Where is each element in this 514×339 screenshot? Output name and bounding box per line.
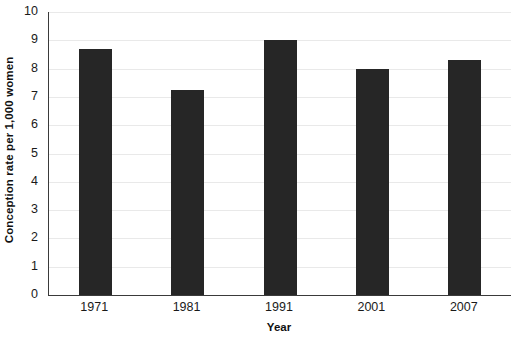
x-axis-title: Year — [48, 321, 510, 333]
x-tick-label: 2001 — [325, 300, 417, 314]
y-tick-label: 6 — [0, 117, 38, 131]
bar-chart: Conception rate per 1,000 women 10987654… — [0, 0, 514, 339]
y-axis-tick-labels: 109876543210 — [0, 0, 44, 339]
y-tick-label: 8 — [0, 61, 38, 75]
bar[interactable] — [264, 40, 297, 295]
y-tick-label: 3 — [0, 202, 38, 216]
y-tick-label: 7 — [0, 89, 38, 103]
x-tick-label: 1971 — [48, 300, 140, 314]
bar[interactable] — [171, 90, 204, 295]
gridline — [49, 12, 511, 13]
x-tick-label: 1991 — [233, 300, 325, 314]
y-tick-label: 2 — [0, 230, 38, 244]
plot-area — [48, 12, 511, 296]
y-tick-label: 1 — [0, 259, 38, 273]
bar[interactable] — [448, 60, 481, 295]
x-axis-title-text: Year — [267, 321, 291, 333]
bar[interactable] — [356, 69, 389, 295]
y-tick-label: 0 — [0, 287, 38, 301]
x-tick-label: 1981 — [140, 300, 232, 314]
y-tick-label: 9 — [0, 32, 38, 46]
y-tick-label: 4 — [0, 174, 38, 188]
bar[interactable] — [79, 49, 112, 295]
y-tick-label: 5 — [0, 146, 38, 160]
y-tick-label: 10 — [0, 4, 38, 18]
x-axis-tick-labels: 19711981199120012007 — [48, 300, 510, 322]
x-tick-label: 2007 — [418, 300, 510, 314]
